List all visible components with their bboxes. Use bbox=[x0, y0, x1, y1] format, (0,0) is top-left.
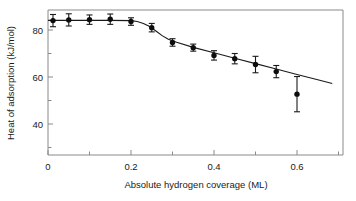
data-point-marker bbox=[274, 69, 279, 74]
x-tick-label-0.2: 0.2 bbox=[124, 161, 137, 172]
data-point-marker bbox=[191, 45, 196, 50]
y-axis-title: Heat of adsorption (kJ/mol) bbox=[5, 26, 16, 140]
data-point-marker bbox=[170, 40, 175, 45]
data-point-marker bbox=[87, 17, 92, 22]
data-point-marker bbox=[232, 56, 237, 61]
y-tick-label-60: 60 bbox=[32, 72, 43, 83]
data-point-marker bbox=[149, 25, 154, 30]
data-point-marker bbox=[253, 62, 258, 67]
x-tick-label-0: 0 bbox=[45, 161, 50, 172]
y-tick-label-40: 40 bbox=[32, 119, 43, 130]
x-tick-label-0.6: 0.6 bbox=[290, 161, 303, 172]
data-point-marker bbox=[128, 19, 133, 24]
data-point-marker bbox=[66, 17, 71, 22]
y-tick-label-80: 80 bbox=[32, 25, 43, 36]
data-point-marker bbox=[108, 16, 113, 21]
data-point-marker bbox=[211, 53, 216, 58]
data-point-marker bbox=[50, 18, 55, 23]
data-point-marker bbox=[294, 91, 299, 96]
chart-figure: 80 60 40 0 0.2 0.4 0.6 Absolute hydrogen… bbox=[0, 0, 356, 201]
x-axis-title: Absolute hydrogen coverage (ML) bbox=[124, 179, 267, 190]
x-tick-label-0.4: 0.4 bbox=[207, 161, 220, 172]
